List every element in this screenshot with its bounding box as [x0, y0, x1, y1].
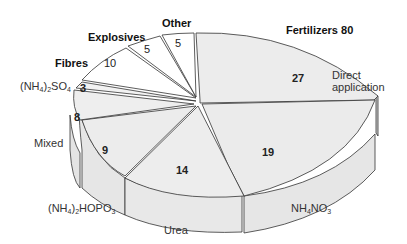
- value-other: 5: [175, 37, 181, 49]
- value-mixed: 8: [74, 111, 80, 123]
- value-explosives: 5: [144, 43, 150, 55]
- value-nh4no3: 19: [262, 146, 274, 158]
- value-hopo: 9: [102, 144, 108, 156]
- value-urea: 14: [176, 164, 188, 176]
- label-so4: (NH4)2SO4: [20, 80, 71, 92]
- label-urea: Urea: [164, 224, 188, 236]
- label-fertilizers: Fertilizers 80: [286, 24, 353, 36]
- value-so4: 3: [80, 82, 86, 94]
- label-fibres: Fibres: [55, 57, 88, 69]
- label-nh4no3: NH4NO3: [291, 202, 331, 214]
- label-mixed: Mixed: [34, 137, 63, 149]
- label-direct-application: Directapplication: [332, 69, 385, 93]
- label-other: Other: [162, 17, 191, 29]
- label-explosives: Explosives: [88, 31, 145, 43]
- value-direct: 27: [292, 72, 304, 84]
- value-fibres: 10: [104, 57, 116, 69]
- label-hopo: (NH4)2HOPO3: [48, 202, 115, 214]
